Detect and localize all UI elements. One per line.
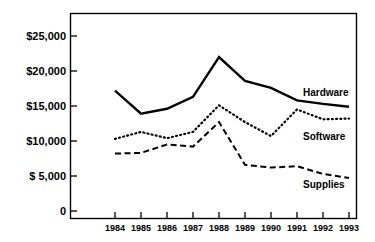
y-tick-label: 0	[60, 205, 66, 217]
y-tick-label: $15,000	[26, 100, 66, 112]
x-tick-label: 1993	[339, 223, 359, 233]
data-series-layer	[115, 57, 349, 178]
y-axis-ticks	[71, 36, 77, 211]
series-label-software: Software	[303, 131, 346, 142]
x-tick-label: 1986	[157, 223, 177, 233]
series-line-hardware	[115, 57, 349, 114]
line-chart: 0$ 5,000$10,000$15,000$20,000$25,000 198…	[0, 0, 375, 242]
x-tick-label: 1987	[183, 223, 203, 233]
x-tick-label: 1985	[131, 223, 151, 233]
x-tick-label: 1990	[261, 223, 281, 233]
series-label-hardware: Hardware	[303, 87, 349, 98]
y-axis-tick-labels: 0$ 5,000$10,000$15,000$20,000$25,000	[26, 30, 66, 217]
x-tick-label: 1989	[235, 223, 255, 233]
x-tick-label: 1992	[313, 223, 333, 233]
x-axis-tick-labels: 1984198519861987198819891990199119921993	[105, 223, 359, 233]
x-tick-label: 1991	[287, 223, 307, 233]
y-tick-label: $ 5,000	[29, 170, 66, 182]
series-label-supplies: Supplies	[303, 179, 345, 190]
y-tick-label: $25,000	[26, 30, 66, 42]
chart-canvas: 0$ 5,000$10,000$15,000$20,000$25,000 198…	[0, 0, 375, 242]
x-axis-ticks	[115, 212, 349, 218]
x-tick-label: 1988	[209, 223, 229, 233]
y-tick-label: $20,000	[26, 65, 66, 77]
x-tick-label: 1984	[105, 223, 125, 233]
y-tick-label: $10,000	[26, 135, 66, 147]
